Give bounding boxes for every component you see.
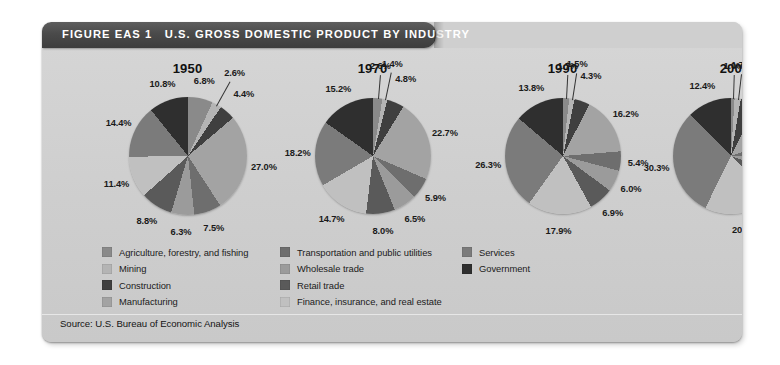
pie-slice-label: 7.5% <box>203 223 224 233</box>
legend-label: Mining <box>119 263 146 274</box>
figure-title: U.S. GROSS DOMESTIC PRODUCT BY INDUSTRY <box>165 28 470 40</box>
legend-label: Construction <box>119 280 171 291</box>
pie-wrapper: 1.0%1.7%4.8%12.0%4.8%5.9%6.6%20.5%30.3%1… <box>647 48 742 248</box>
legend-swatch <box>280 297 290 307</box>
pie-slice-label: 20.5% <box>732 225 742 235</box>
pie-label-leader-line <box>738 74 742 99</box>
pie-wrapper: 6.8%2.6%4.4%27.0%7.5%6.3%8.8%11.4%14.4%1… <box>100 48 275 248</box>
pie-slice-label: 13.8% <box>518 83 544 93</box>
legend-label: Services <box>479 247 515 258</box>
pie-slice-label: 12.4% <box>689 81 715 91</box>
legend-item: Retail trade <box>280 277 442 294</box>
pie-wrapper: 2.6%1.4%4.8%22.7%5.9%6.5%8.0%14.7%18.2%1… <box>285 48 460 248</box>
pie-slice-label: 17.9% <box>546 226 572 236</box>
source-divider <box>42 314 742 315</box>
legend-label: Finance, insurance, and real estate <box>297 296 442 307</box>
pie-slice-label: 6.9% <box>602 208 623 218</box>
legend-label: Transportation and public utilities <box>297 247 432 258</box>
legend-swatch <box>102 297 112 307</box>
pie-slice-label: 4.4% <box>233 89 254 99</box>
legend-item: Manufacturing <box>102 294 248 311</box>
legend-swatch <box>280 264 290 274</box>
pie-label-leader-line <box>733 75 735 99</box>
pie-slice-label: 6.8% <box>194 76 215 86</box>
pie-chart-1990: 19901.7%1.5%4.3%16.2%5.4%6.0%6.9%17.9%26… <box>475 48 650 248</box>
pie-wrapper: 1.7%1.5%4.3%16.2%5.4%6.0%6.9%17.9%26.3%1… <box>475 48 650 248</box>
pie-slice-label: 11.4% <box>104 179 129 189</box>
figure-title-text: FIGURE EAS 1 U.S. GROSS DOMESTIC PRODUCT… <box>62 28 470 40</box>
pie-label-leader-line <box>572 73 577 100</box>
figure-label: FIGURE EAS 1 <box>62 28 152 40</box>
pie-slice-label: 22.7% <box>432 128 458 138</box>
pie-slices <box>315 98 431 214</box>
legend-item: Mining <box>102 261 248 278</box>
legend-swatch <box>462 247 472 257</box>
pie-chart-2005: 20051.0%1.7%4.8%12.0%4.8%5.9%6.6%20.5%30… <box>647 48 742 248</box>
pie-slice-label: 30.3% <box>644 163 670 173</box>
legend-label: Manufacturing <box>119 296 178 307</box>
legend-label: Government <box>479 263 530 274</box>
legend-item: Agriculture, forestry, and fishing <box>102 244 248 261</box>
pie-slice-label: 14.7% <box>319 214 345 224</box>
pie-slice-label: 18.2% <box>285 148 311 158</box>
title-tab-shadow <box>434 22 444 48</box>
pie-slice-label: 14.4% <box>106 118 132 128</box>
legend-item: Transportation and public utilities <box>280 244 442 261</box>
legend-item: Construction <box>102 277 248 294</box>
pie-slice-label: 6.5% <box>404 214 425 224</box>
pie-slice-label: 1.4% <box>382 59 403 69</box>
pie-slice-label: 1.7% <box>731 60 742 70</box>
legend-item: Wholesale trade <box>280 261 442 278</box>
pie-chart-group: 19506.8%2.6%4.4%27.0%7.5%6.3%8.8%11.4%14… <box>42 48 742 248</box>
legend-swatch <box>102 264 112 274</box>
pie-chart-1950: 19506.8%2.6%4.4%27.0%7.5%6.3%8.8%11.4%14… <box>100 48 275 248</box>
pie-label-leader-line <box>378 76 381 100</box>
pie-slices <box>505 98 621 214</box>
legend-swatch <box>102 280 112 290</box>
pie-slices <box>129 97 247 215</box>
legend-swatch <box>102 247 112 257</box>
pie-label-leader-line <box>216 81 231 106</box>
chart-legend: Agriculture, forestry, and fishingMining… <box>42 244 742 310</box>
pie-slice-label: 15.2% <box>325 84 351 94</box>
pie-chart-1970: 19702.6%1.4%4.8%22.7%5.9%6.5%8.0%14.7%18… <box>285 48 460 248</box>
pie-slices <box>673 98 742 214</box>
pie-slice-label: 8.8% <box>136 216 157 226</box>
pie-slice-label: 10.8% <box>150 79 176 89</box>
legend-column-1: Agriculture, forestry, and fishingMining… <box>102 244 248 310</box>
legend-swatch <box>280 247 290 257</box>
pie-slice-label: 6.0% <box>621 184 642 194</box>
figure-titlebar: FIGURE EAS 1 U.S. GROSS DOMESTIC PRODUCT… <box>42 22 742 48</box>
pie-label-leader-line <box>566 76 568 100</box>
figure-panel: FIGURE EAS 1 U.S. GROSS DOMESTIC PRODUCT… <box>42 22 742 342</box>
pie-slice-label: 8.0% <box>373 226 394 236</box>
pie-label-leader-line <box>385 73 392 100</box>
pie-slice-label: 16.2% <box>613 109 639 119</box>
legend-column-2: Transportation and public utilitiesWhole… <box>280 244 442 310</box>
figure-title-tab: FIGURE EAS 1 U.S. GROSS DOMESTIC PRODUCT… <box>42 22 436 48</box>
figure-root: FIGURE EAS 1 U.S. GROSS DOMESTIC PRODUCT… <box>0 0 780 365</box>
pie-slice-label: 4.8% <box>395 74 416 84</box>
pie-slice-label: 4.3% <box>581 71 602 81</box>
pie-slice-label: 6.3% <box>171 227 192 237</box>
pie-slice-label: 2.6% <box>224 68 245 78</box>
legend-item: Services <box>462 244 530 261</box>
pie-slice-label: 1.5% <box>567 59 588 69</box>
legend-item: Finance, insurance, and real estate <box>280 294 442 311</box>
pie-slice-label: 5.9% <box>425 193 446 203</box>
legend-label: Wholesale trade <box>297 263 364 274</box>
legend-swatch <box>280 280 290 290</box>
legend-column-3: ServicesGovernment <box>462 244 530 277</box>
pie-slice-label: 27.0% <box>251 162 277 172</box>
legend-item: Government <box>462 261 530 278</box>
legend-swatch <box>462 264 472 274</box>
legend-label: Agriculture, forestry, and fishing <box>119 247 248 258</box>
legend-label: Retail trade <box>297 280 344 291</box>
source-note: Source: U.S. Bureau of Economic Analysis <box>60 318 239 329</box>
pie-slice-label: 26.3% <box>475 160 501 170</box>
